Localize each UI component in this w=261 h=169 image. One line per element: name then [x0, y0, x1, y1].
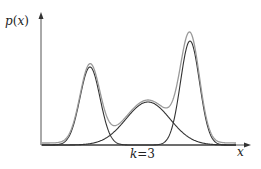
gaussian-mixture-figure: p(x) x k=3 [0, 0, 261, 169]
mixture-curve [42, 32, 236, 143]
k-annotation: k=3 [130, 147, 155, 161]
axes [39, 12, 252, 148]
x-axis-label: x [237, 145, 244, 159]
x-axis-arrow-icon [244, 143, 251, 148]
y-axis-arrow-icon [39, 12, 44, 19]
curves [42, 32, 236, 145]
y-axis-label: p(x) [5, 14, 29, 28]
